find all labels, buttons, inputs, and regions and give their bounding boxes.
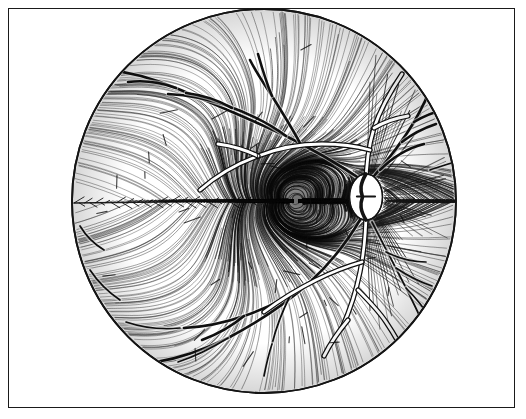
fundus-disc-group [72,9,456,393]
fundus-figure: Retinal nerve fibre layer fundus drawing [0,0,526,419]
fundus-illustration [0,0,526,419]
